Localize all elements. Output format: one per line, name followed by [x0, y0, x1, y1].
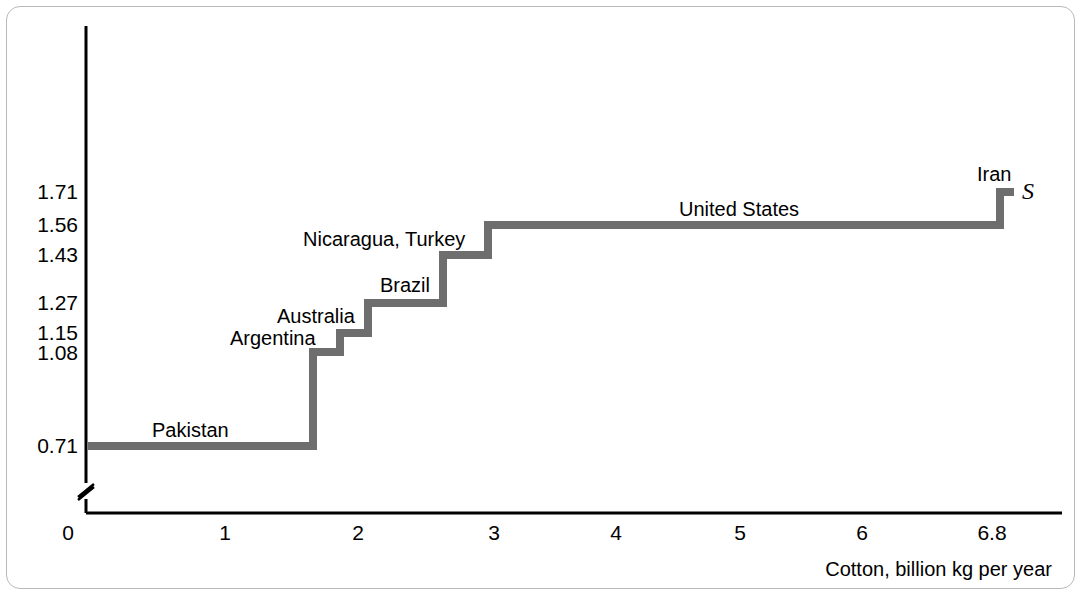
step-label-brazil: Brazil — [380, 274, 430, 297]
y-tick-label-1-43: 1.43 — [2, 243, 78, 267]
x-tick-label-1: 1 — [219, 521, 231, 545]
step-label-argentina: Argentina — [230, 327, 316, 350]
step-label-united-states: United States — [679, 198, 799, 221]
x-tick-label-5: 5 — [734, 521, 746, 545]
supply-step-curve — [88, 192, 1014, 446]
x-tick-label-6-8: 6.8 — [977, 521, 1006, 545]
y-axis-break-icon — [78, 484, 94, 500]
x-tick-label-6: 6 — [856, 521, 868, 545]
y-tick-label-1-08: 1.08 — [2, 341, 78, 365]
step-label-pakistan: Pakistan — [152, 419, 229, 442]
y-tick-label-1-71: 1.71 — [2, 180, 78, 204]
x-tick-label-0: 0 — [62, 521, 74, 545]
x-tick-label-3: 3 — [488, 521, 500, 545]
x-axis-title: Cotton, billion kg per year — [825, 558, 1052, 581]
supply-curve-label: S — [1022, 178, 1034, 205]
y-tick-label-1-56: 1.56 — [2, 213, 78, 237]
chart-canvas — [0, 0, 1088, 603]
step-label-australia: Australia — [277, 305, 355, 328]
y-tick-label-0-71: 0.71 — [2, 434, 78, 458]
x-tick-label-4: 4 — [610, 521, 622, 545]
x-tick-label-2: 2 — [352, 521, 364, 545]
step-label-nicaragua-turkey: Nicaragua, Turkey — [303, 228, 465, 251]
y-tick-label-1-27: 1.27 — [2, 291, 78, 315]
step-label-iran: Iran — [977, 163, 1011, 186]
supply-curve-figure: Price, $ per kg Cotton, billion kg per y… — [0, 0, 1088, 603]
